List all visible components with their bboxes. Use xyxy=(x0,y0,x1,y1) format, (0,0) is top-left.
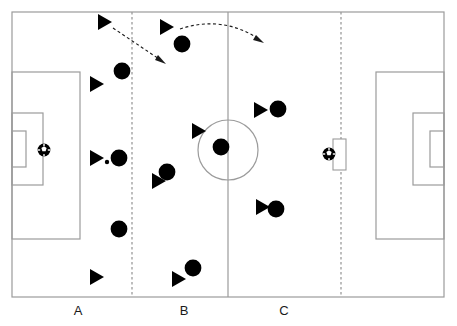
player-triangle xyxy=(98,14,112,30)
right-penalty-area xyxy=(376,72,444,239)
movement-arrow-curved xyxy=(180,24,264,43)
player-circle xyxy=(268,201,285,218)
right-goal-area xyxy=(413,113,444,185)
player-circle xyxy=(114,63,131,80)
right-goal xyxy=(430,131,444,167)
player-triangle xyxy=(90,76,104,92)
player-triangle xyxy=(90,150,104,166)
left-goal xyxy=(12,131,26,167)
zone-label-b: B xyxy=(164,303,204,319)
player-circle xyxy=(159,164,176,181)
zone-label-c: C xyxy=(264,303,304,319)
player-circle xyxy=(185,260,202,277)
movement-arrow-diagonal xyxy=(113,28,166,64)
player-circle xyxy=(111,150,128,167)
player-triangle xyxy=(90,269,104,285)
soccer-ball-icon-right xyxy=(323,148,336,161)
player-circle xyxy=(213,139,230,156)
player-circle xyxy=(174,36,191,53)
soccer-pitch-graphic xyxy=(0,0,457,326)
player-circle xyxy=(270,101,287,118)
player-triangle xyxy=(160,19,174,35)
tactical-diagram-canvas: A B C xyxy=(0,0,457,326)
player-triangle xyxy=(172,271,186,287)
zone-label-a: A xyxy=(58,303,98,319)
small-dot-marker xyxy=(105,160,109,164)
soccer-ball-icon-left xyxy=(38,144,51,157)
player-triangle xyxy=(192,123,206,139)
player-triangle xyxy=(254,102,268,118)
player-circle xyxy=(111,221,128,238)
